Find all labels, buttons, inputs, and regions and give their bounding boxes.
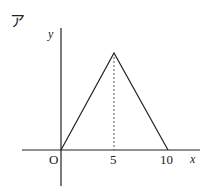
tick-label-5: 5	[110, 152, 117, 167]
x-axis-label: x	[189, 152, 196, 166]
panel-label: ア	[10, 13, 25, 29]
origin-label: O	[49, 152, 58, 167]
graph-diagram: ア y O 5 10 x	[0, 0, 211, 193]
tick-label-10: 10	[160, 152, 173, 167]
triangle-graph-line	[61, 53, 168, 150]
y-axis-label: y	[47, 27, 54, 41]
